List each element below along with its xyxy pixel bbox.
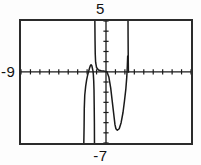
calculator-graph-screenshot: 5 -9 -7 — [0, 0, 201, 165]
plot-svg — [21, 21, 191, 143]
window-label-xmin: -9 — [1, 64, 19, 79]
curve-left-descending-branch — [84, 65, 95, 143]
window-label-ymax: 5 — [0, 1, 201, 16]
axes-layer — [21, 21, 191, 143]
curve-center-rising-to-asymptote-branch — [95, 21, 128, 130]
graph-frame — [19, 19, 193, 145]
window-label-ymin: -7 — [0, 148, 201, 163]
plot-area — [21, 21, 191, 143]
